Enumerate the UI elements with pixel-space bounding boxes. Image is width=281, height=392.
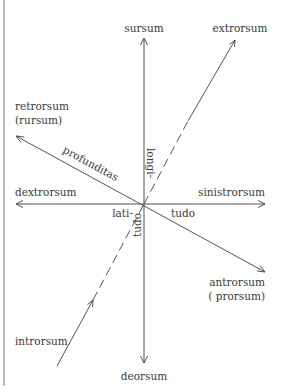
extrorsum-line-solid [188, 40, 235, 121]
label-deorsum: deorsum [121, 370, 167, 382]
introrsum-line-solid [57, 300, 93, 366]
label-longi: longi- [145, 148, 157, 179]
label-extrorsum: extrorsum [213, 22, 268, 34]
direction-diagram: sursum deorsum extrorsum introrsum retro… [0, 0, 281, 392]
label-rursum: (rursum) [15, 114, 62, 126]
arrowhead-extrorsum [230, 40, 236, 47]
label-prorsum: ( prorsum) [208, 290, 265, 302]
label-retrorsum: retrorsum [15, 100, 69, 112]
label-lati: lati- [112, 207, 133, 219]
label-sursum: sursum [124, 22, 163, 34]
label-tudo-horizontal: tudo [171, 207, 195, 219]
label-dextrorsum: dextrorsum [15, 186, 77, 198]
label-introrsum: introrsum [15, 335, 68, 347]
label-sinistrorsum: sinistrorsum [198, 186, 265, 198]
label-antrorsum: antrorsum [209, 276, 265, 288]
